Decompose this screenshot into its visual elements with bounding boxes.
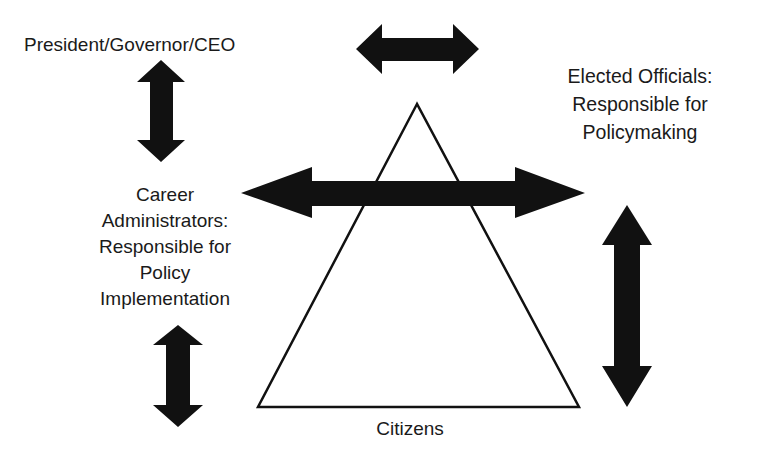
top-horizontal-double-arrow-icon: [356, 24, 479, 74]
executive-label: President/Governor/CEO: [24, 34, 284, 57]
career-administrators-label: Career Administrators: Responsible for P…: [85, 182, 245, 312]
central-horizontal-double-arrow-icon: [241, 167, 585, 218]
executive-vertical-double-arrow-icon: [137, 60, 185, 162]
elected-vertical-double-arrow-icon: [602, 205, 652, 407]
citizens-label: Citizens: [350, 418, 470, 441]
elected-officials-label: Elected Officials: Responsible for Polic…: [540, 62, 740, 146]
pyramid-triangle: [258, 104, 579, 407]
career-vertical-double-arrow-icon: [153, 325, 203, 427]
